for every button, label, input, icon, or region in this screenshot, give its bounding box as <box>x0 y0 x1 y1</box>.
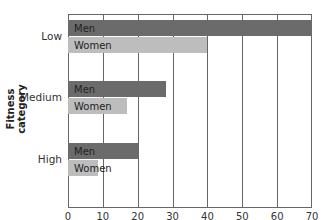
x-axis-line <box>68 207 312 208</box>
bar-women-high: Women <box>68 160 98 176</box>
x-tick-label: 70 <box>302 211 322 220</box>
x-tick-label: 10 <box>93 211 113 220</box>
x-tick-label: 60 <box>267 211 287 220</box>
bar-label: Men <box>74 23 95 34</box>
gridline <box>242 14 243 208</box>
category-label: High <box>12 153 62 165</box>
x-tick-label: 40 <box>197 211 217 220</box>
bar-men-medium: Men <box>68 81 166 97</box>
x-tick-label: 50 <box>232 211 252 220</box>
bar-men-low: Men <box>68 20 312 36</box>
bar-label: Women <box>74 40 112 51</box>
bar-women-medium: Women <box>68 98 127 114</box>
bar-label: Women <box>74 163 112 174</box>
category-label: Low <box>12 30 62 42</box>
gridline <box>207 14 208 208</box>
x-tick-label: 20 <box>128 211 148 220</box>
bar-label: Women <box>74 101 112 112</box>
bar-men-high: Men <box>68 143 138 159</box>
bar-label: Men <box>74 146 95 157</box>
x-tick-label: 0 <box>58 211 78 220</box>
x-tick-label: 30 <box>163 211 183 220</box>
bar-women-low: Women <box>68 37 207 53</box>
bar-label: Men <box>74 84 95 95</box>
gridline <box>277 14 278 208</box>
bar-chart: MenWomenMenWomenMenWomen LowMediumHigh 0… <box>0 0 331 220</box>
y-axis-label: Fitness category <box>5 69 27 149</box>
